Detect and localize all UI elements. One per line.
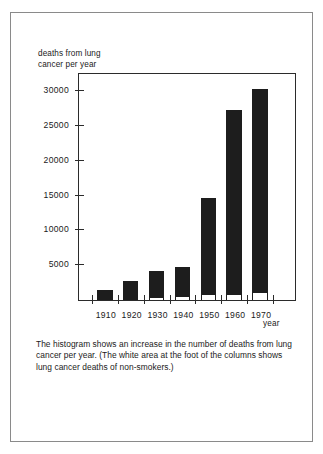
page-sheet: deaths from lung cancer per year 5000100… (10, 12, 313, 442)
x-tick-label: 1940 (173, 310, 193, 320)
x-tick-1930: 1930 (144, 295, 145, 304)
x-tick-1910: 1910 (92, 295, 93, 304)
histogram-figure: deaths from lung cancer per year 5000100… (11, 13, 314, 323)
bar-foot-nonsmokers-1930 (149, 297, 165, 300)
y-tick-5000: 5000 (75, 264, 84, 265)
x-tick-1920: 1920 (118, 295, 119, 304)
y-tick-label: 25000 (44, 120, 69, 130)
y-axis-title: deaths from lung cancer per year (38, 49, 101, 70)
bar-1960 (226, 110, 242, 300)
x-axis-title: year (263, 319, 280, 328)
x-tick-1940: 1940 (170, 295, 171, 304)
bar-1920 (123, 281, 139, 300)
plot-area: 50001000015000200002500030000 1910192019… (78, 73, 296, 301)
y-tick-10000: 10000 (75, 229, 84, 230)
figure-caption: The histogram shows an increase in the n… (36, 339, 298, 373)
bar-1930 (149, 271, 165, 300)
x-tick-label: 1910 (96, 310, 116, 320)
y-tick-30000: 30000 (75, 90, 84, 91)
bar-foot-nonsmokers-1960 (226, 294, 242, 300)
x-tick-end (273, 295, 274, 304)
y-tick-label: 10000 (44, 224, 69, 234)
x-tick-label: 1950 (199, 310, 219, 320)
y-tick-label: 5000 (49, 259, 69, 269)
bar-1950 (201, 198, 217, 300)
x-tick-1960: 1960 (221, 295, 222, 304)
bar-foot-nonsmokers-1940 (175, 296, 191, 300)
y-tick-25000: 25000 (75, 125, 84, 126)
x-tick-1970: 1970 (247, 295, 248, 304)
bar-foot-nonsmokers-1950 (201, 294, 217, 300)
x-tick-label: 1960 (225, 310, 245, 320)
caption-text: The histogram shows an increase in the n… (36, 339, 298, 373)
bar-1910 (97, 290, 113, 300)
bar-foot-nonsmokers-1970 (252, 292, 268, 300)
y-tick-label: 30000 (44, 85, 69, 95)
bar-1940 (175, 267, 191, 300)
x-tick-label: 1920 (122, 310, 142, 320)
bar-1970 (252, 89, 268, 300)
y-tick-15000: 15000 (75, 195, 84, 196)
x-tick-1950: 1950 (195, 295, 196, 304)
y-tick-label: 20000 (44, 155, 69, 165)
x-tick-label: 1930 (147, 310, 167, 320)
y-tick-20000: 20000 (75, 160, 84, 161)
y-tick-label: 15000 (44, 190, 69, 200)
